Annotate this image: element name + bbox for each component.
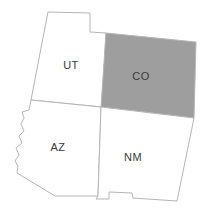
state-group-co[interactable]: CO xyxy=(101,33,196,118)
state-label-co: CO xyxy=(132,70,149,82)
four-corners-map: UT CO AZ NM xyxy=(0,0,209,223)
state-group-nm[interactable]: NM xyxy=(96,107,194,201)
map-canvas: UT CO AZ NM xyxy=(0,0,209,223)
state-label-az: AZ xyxy=(51,141,66,153)
state-group-ut[interactable]: UT xyxy=(31,12,106,107)
state-group-az[interactable]: AZ xyxy=(15,100,101,196)
state-label-nm: NM xyxy=(124,151,142,163)
state-shape-nm[interactable] xyxy=(96,107,194,201)
state-label-ut: UT xyxy=(63,59,78,71)
